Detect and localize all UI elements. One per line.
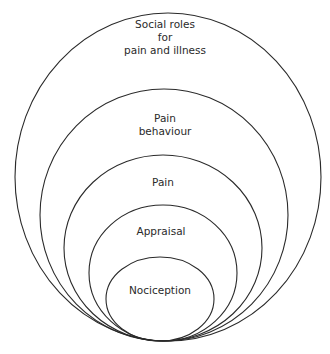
nested-pain-model-diagram: Social roles for pain and illness Pain b…	[0, 0, 330, 354]
label-pain-behaviour-line-2: behaviour	[139, 125, 192, 137]
layer-appraisal: Appraisal	[89, 205, 237, 341]
label-nociception: Nociception	[129, 284, 191, 296]
label-social-roles-line-2: for	[158, 31, 173, 43]
ellipse-nociception	[106, 257, 214, 341]
label-pain: Pain	[152, 176, 174, 188]
layer-nociception: Nociception	[106, 257, 214, 341]
label-pain-behaviour-line-1: Pain	[154, 112, 176, 124]
layer-pain-behaviour: Pain behaviour	[40, 89, 288, 341]
label-appraisal: Appraisal	[136, 225, 185, 237]
label-social-roles-line-1: Social roles	[135, 18, 195, 30]
label-social-roles-line-3: pain and illness	[124, 44, 206, 56]
